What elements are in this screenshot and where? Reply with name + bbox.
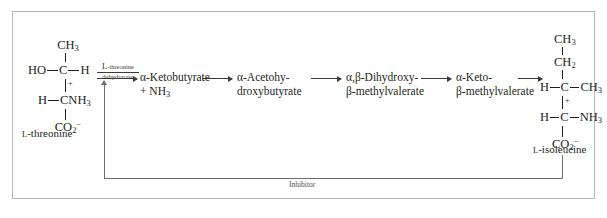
isoleucine-alpha-carbon: C <box>560 111 568 124</box>
compound-alpha-acetohydroxybutyrate: α-Acetohy- droxybutyrate <box>237 71 302 98</box>
reaction-arrow-5 <box>518 78 542 79</box>
threonine-positive-charge: + <box>68 80 73 88</box>
compound-dihydroxy-methylvalerate: α,β-Dihydroxy- β-methylvalerate <box>346 71 424 98</box>
isoleucine-top-atom: CH <box>554 32 571 46</box>
compound-alpha-ketobutyrate: α-Ketobutyrate + NH3 <box>140 71 210 101</box>
threonine-hydroxyl-row: HO C H <box>28 62 100 79</box>
label-l-isoleucine-rest: -isoleucine <box>538 143 586 155</box>
isoleucine-beta-carbon: C <box>561 81 569 94</box>
compound-3-line-1: α,β-Dihydroxy- <box>346 71 424 85</box>
isoleucine-beta-row: H C CH3 <box>540 79 602 96</box>
isoleucine-amino-sub: 3 <box>598 115 602 125</box>
isoleucine-side-methyl: CH <box>580 80 597 94</box>
threonine-top-atom: CH <box>57 38 74 52</box>
label-l-isoleucine: L-isoleucine <box>533 143 586 155</box>
bond-horizontal-h-calpha <box>550 117 559 118</box>
bond-horizontal-h-cnh3 <box>48 100 59 101</box>
bond-horizontal-ho-c <box>47 70 58 71</box>
isoleucine-alpha-hydrogen: H <box>540 111 549 124</box>
compound-1-line-2: + NH3 <box>140 85 210 101</box>
bond-vertical-ch3-ch2 <box>562 47 563 55</box>
feedback-line-vertical-right <box>562 155 563 179</box>
feedback-arrowhead <box>101 80 107 85</box>
label-l-threonine-rest: -threonine <box>27 127 72 139</box>
threonine-amino-hydrogen: H <box>38 94 47 107</box>
isoleucine-methylene: CH2 <box>540 55 602 70</box>
threonine-top-sub: 3 <box>75 43 79 53</box>
feedback-line-horizontal <box>104 178 563 179</box>
threonine-hydrogen: H <box>80 64 89 77</box>
enzyme-line-1-rest: -threonine <box>107 63 134 70</box>
structure-l-isoleucine: CH3 CH2 H C CH3 + H C <box>540 32 602 152</box>
bond-vertical-calpha-co2 <box>562 126 563 137</box>
threonine-amino-row: H CNH3 <box>28 92 100 109</box>
bond-vertical-c-cnh3 <box>65 79 66 92</box>
compound-2-line-2: droxybutyrate <box>237 85 302 99</box>
isoleucine-side-methyl-sub: 3 <box>598 85 602 95</box>
threonine-carboxyl-charge: − <box>76 119 81 129</box>
threonine-hydroxyl: HO <box>28 64 46 77</box>
compound-keto-methylvalerate: α-Keto- β-methylvalerate <box>456 71 534 98</box>
compound-4-line-2: β-methylvalerate <box>456 85 534 99</box>
bond-vertical-methyl <box>65 53 66 62</box>
reaction-arrow-1 <box>97 78 137 79</box>
feedback-line-vertical-left <box>104 84 105 179</box>
threonine-methyl-group: CH3 <box>28 38 100 53</box>
bond-horizontal-h-c <box>550 87 560 88</box>
bond-horizontal-c-ch3 <box>570 87 580 88</box>
isoleucine-second-atom: CH <box>554 55 571 69</box>
compound-1-line-2-text: + NH <box>140 85 166 97</box>
reaction-arrow-3 <box>311 78 341 79</box>
structure-l-threonine: CH3 HO C H + H CNH3 CO2− <box>28 38 100 135</box>
feedback-label-inhibitor: Inhibitor <box>289 180 315 189</box>
compound-2-line-1: α-Acetohy- <box>237 71 302 85</box>
compound-3-line-2: β-methylvalerate <box>346 85 424 99</box>
isoleucine-top-sub: 3 <box>571 37 575 47</box>
bond-vertical-c-c <box>562 96 563 109</box>
isoleucine-alpha-row: H C NH3 <box>540 109 602 126</box>
isoleucine-amino: NH <box>580 110 598 124</box>
isoleucine-second-sub: 2 <box>571 60 575 70</box>
bond-vertical-ch2-c <box>562 70 563 79</box>
threonine-amino-carbon: CNH <box>60 93 86 107</box>
bond-vertical-cnh3-co2 <box>65 109 66 120</box>
threonine-amino-sub: 3 <box>86 98 90 108</box>
compound-1-line-1: α-Ketobutyrate <box>140 71 210 85</box>
compound-1-line-2-sub: 3 <box>166 88 170 98</box>
isoleucine-beta-hydrogen: H <box>540 81 549 94</box>
reaction-arrow-2 <box>202 78 232 79</box>
isoleucine-terminal-methyl: CH3 <box>540 32 602 47</box>
bond-horizontal-c-h <box>68 70 79 71</box>
bond-horizontal-calpha-nh3 <box>570 117 579 118</box>
isoleucine-positive-charge: + <box>565 97 570 105</box>
reaction-arrow-4 <box>421 78 451 79</box>
label-l-threonine: L-threonine <box>22 127 72 139</box>
enzyme-line-1: L-threonine <box>97 62 139 71</box>
threonine-alpha-carbon: C <box>59 64 67 77</box>
pathway-diagram: CH3 HO C H + H CNH3 CO2− <box>0 0 607 218</box>
